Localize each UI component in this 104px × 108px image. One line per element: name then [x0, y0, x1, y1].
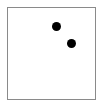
scatter-point: [52, 22, 61, 31]
plot-frame: [7, 7, 96, 100]
scatter-point: [67, 39, 76, 48]
figure-canvas: A white rectangle outlined in gray conta…: [0, 0, 104, 108]
